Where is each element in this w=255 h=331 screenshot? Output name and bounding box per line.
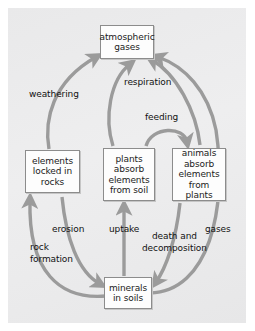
- node-minerals-in-soils[interactable]: minerals in soils: [104, 277, 152, 309]
- node-plants-absorb-elements-from-soil[interactable]: plants absorb elements from soil: [103, 148, 155, 201]
- node-atmospheric-gases[interactable]: atmospheric gases: [100, 25, 154, 59]
- edge-label-gases: gases: [205, 223, 231, 235]
- nutrient-cycle-diagram: atmospheric gases elements locked in roc…: [0, 0, 255, 331]
- node-elements-locked-in-rocks[interactable]: elements locked in rocks: [25, 150, 80, 193]
- edge-label-erosion: erosion: [52, 223, 84, 235]
- edge-label-respiration: respiration: [124, 76, 171, 88]
- edge-label-feeding: feeding: [145, 111, 178, 123]
- edge-label-uptake: uptake: [109, 223, 139, 235]
- edge-feeding-arrow: [146, 130, 187, 146]
- edge-weathering-arrow: [48, 57, 96, 149]
- edge-label-death-and-decomposition: death and decomposition: [142, 230, 207, 254]
- node-animals-absorb-elements-from-plants[interactable]: animals absorb elements from plants: [172, 148, 226, 201]
- edge-label-rock-formation: rock formation: [30, 241, 73, 265]
- edge-label-weathering: weathering: [29, 88, 79, 100]
